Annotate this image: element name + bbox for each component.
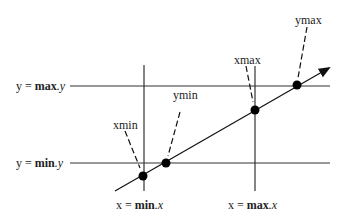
xmax-label: xmax (234, 53, 261, 67)
min-x-label: x = min.x (116, 198, 164, 212)
max-x-label: x = max.x (228, 198, 278, 212)
xmin-point (139, 172, 148, 181)
ymax-point (293, 81, 302, 90)
clipping-diagram: xmin ymin xmax ymax y = max.y y = min.y … (0, 0, 344, 222)
ymin-point (162, 159, 171, 168)
max-y-label: y = max.y (16, 79, 66, 93)
xmin-label: xmin (113, 118, 138, 132)
xmax-leader (246, 66, 253, 102)
ymin-leader (168, 112, 180, 156)
ymax-leader (298, 27, 307, 78)
xmax-point (251, 106, 260, 115)
min-y-label: y = min.y (16, 156, 64, 170)
ymax-label: ymax (295, 13, 322, 27)
ymin-label: ymin (173, 88, 198, 102)
